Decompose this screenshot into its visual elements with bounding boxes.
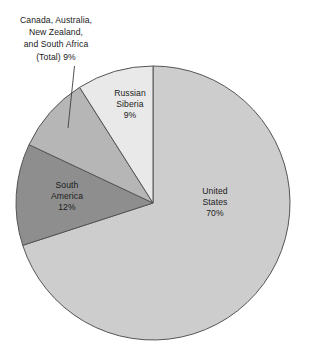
- pie-chart: United States 70% Russian Siberia 9% Sou…: [0, 0, 316, 352]
- pie-chart-svg: [0, 0, 316, 352]
